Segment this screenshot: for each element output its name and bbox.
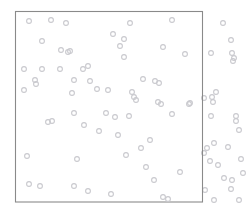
- scatter-plot-figure: [0, 0, 251, 217]
- plot-canvas: [0, 0, 251, 217]
